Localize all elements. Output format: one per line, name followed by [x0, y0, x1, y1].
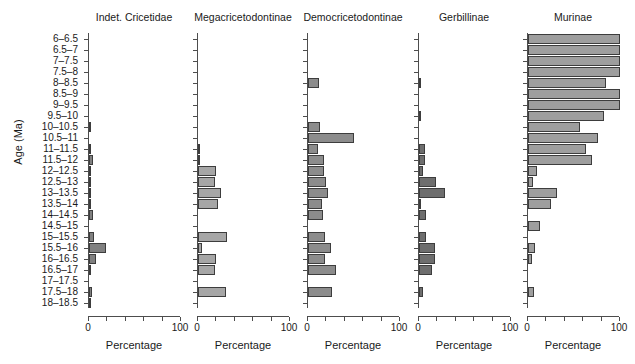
y-axis-tick-mark — [193, 171, 197, 172]
y-axis-tick-label: 14–14.5 — [26, 209, 78, 220]
y-axis-tick-label: 14.5–15 — [26, 220, 78, 231]
y-axis-tick-label: 6–6.5 — [26, 33, 78, 44]
y-axis-tick-mark — [303, 72, 307, 73]
bar-row — [89, 243, 181, 253]
y-axis-tick-mark — [303, 116, 307, 117]
x-axis-tick-mark — [289, 317, 290, 321]
chart-panel: Democricetodontinae0100Percentage — [307, 0, 399, 364]
y-axis-tick-mark — [414, 182, 418, 183]
bar-row — [308, 287, 400, 297]
chart-panel: Gerbillinae0100Percentage — [418, 0, 510, 364]
bar — [308, 122, 320, 132]
bar-row — [528, 144, 620, 154]
plot-area — [307, 33, 399, 308]
y-axis-tick-mark — [523, 72, 527, 73]
bar — [198, 166, 216, 176]
bar-row — [198, 89, 290, 99]
x-axis-title: Percentage — [297, 339, 409, 351]
y-axis-tick-label: 7–7.5 — [26, 55, 78, 66]
bar-row — [89, 67, 181, 77]
y-axis-tick-mark — [523, 39, 527, 40]
bar — [528, 45, 620, 55]
bar-row — [528, 287, 620, 297]
bar — [198, 243, 202, 253]
bar — [89, 155, 93, 165]
bar-row — [89, 188, 181, 198]
y-axis-tick-mark — [84, 292, 88, 293]
y-axis-tick-mark — [84, 237, 88, 238]
bar-row — [89, 144, 181, 154]
bar — [308, 265, 336, 275]
bar-row — [528, 67, 620, 77]
bar — [528, 133, 598, 143]
y-axis-tick-mark — [84, 61, 88, 62]
bar — [419, 166, 423, 176]
bar-row — [528, 221, 620, 231]
plot-area — [197, 33, 289, 308]
bar — [198, 254, 216, 264]
x-axis-tick-mark — [215, 317, 216, 321]
bar-row — [308, 89, 400, 99]
y-axis-tick-label: 9.5–10 — [26, 110, 78, 121]
bar-row — [198, 177, 290, 187]
y-axis-tick-mark — [523, 204, 527, 205]
y-axis-tick-mark — [414, 303, 418, 304]
bar-row — [308, 177, 400, 187]
bar-row — [89, 45, 181, 55]
bar — [528, 144, 586, 154]
x-axis-tick-mark — [492, 317, 493, 321]
y-axis-tick-mark — [303, 237, 307, 238]
bar-row — [198, 298, 290, 308]
bar-row — [89, 210, 181, 220]
x-axis-tick-label: 0 — [287, 322, 327, 333]
bar — [419, 210, 426, 220]
y-axis-tick-mark — [84, 72, 88, 73]
y-axis-tick-mark — [303, 138, 307, 139]
y-axis-tick-mark — [523, 61, 527, 62]
y-axis-tick-mark — [523, 149, 527, 150]
y-axis-tick-mark — [84, 138, 88, 139]
bar — [89, 243, 106, 253]
chart-panel: Megacricetodontinae0100Percentage — [197, 0, 289, 364]
y-axis-tick-mark — [193, 39, 197, 40]
bar — [419, 177, 436, 187]
y-axis-title: Age (Ma) — [12, 102, 24, 182]
bar — [528, 34, 620, 44]
x-axis-tick-mark — [307, 317, 308, 321]
y-axis-tick-mark — [414, 72, 418, 73]
y-axis-tick-mark — [303, 303, 307, 304]
y-axis-tick-mark — [193, 270, 197, 271]
y-axis-tick-mark — [84, 171, 88, 172]
y-axis-tick-mark — [414, 149, 418, 150]
y-axis-tick-mark — [414, 270, 418, 271]
y-axis-tick-mark — [84, 149, 88, 150]
y-axis-tick-mark — [523, 127, 527, 128]
bar — [528, 199, 551, 209]
y-axis-tick-mark — [84, 193, 88, 194]
chart-panel: Indet. Cricetidae0100Percentage — [88, 0, 180, 364]
y-axis-tick-mark — [193, 83, 197, 84]
y-axis-tick-mark — [414, 50, 418, 51]
bar — [89, 188, 91, 198]
bar — [198, 188, 221, 198]
chart-panel: Murinae0100Percentage — [527, 0, 619, 364]
y-axis-tick-mark — [303, 204, 307, 205]
y-axis-tick-label: 8.5–9 — [26, 88, 78, 99]
x-axis-tick-mark — [344, 317, 345, 321]
y-axis-tick-mark — [523, 270, 527, 271]
bar — [89, 232, 94, 242]
bar-row — [308, 265, 400, 275]
y-axis-tick-mark — [303, 171, 307, 172]
bar-row — [419, 265, 511, 275]
bar-row — [89, 265, 181, 275]
bar-row — [89, 122, 181, 132]
bar-row — [198, 232, 290, 242]
y-axis-tick-mark — [523, 50, 527, 51]
x-axis-tick-mark — [234, 317, 235, 321]
bar — [198, 265, 215, 275]
y-axis-tick-mark — [523, 105, 527, 106]
y-axis-tick-mark — [84, 160, 88, 161]
bar-row — [528, 298, 620, 308]
bar-row — [419, 177, 511, 187]
bar-row — [528, 265, 620, 275]
